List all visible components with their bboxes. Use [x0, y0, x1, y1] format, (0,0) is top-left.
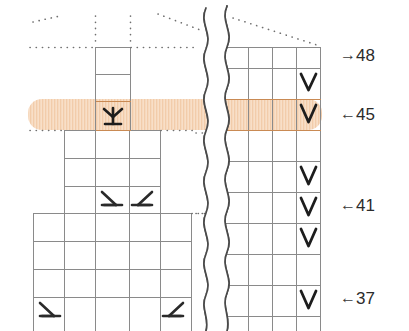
dotted-diagonal-topleft: [33, 16, 60, 22]
row-45-number: 45: [356, 105, 375, 124]
row-label-41: ←41: [340, 197, 375, 214]
v-stitch-row43: [301, 167, 316, 184]
row-label-37: ←37: [340, 290, 375, 307]
row-37-arrow-icon: ←: [340, 289, 356, 306]
row-41-arrow-icon: ←: [340, 196, 356, 213]
symbol-left-decrease-1: [132, 192, 152, 205]
row-41-number: 41: [356, 196, 375, 215]
dotted-diagonal-topmid: [158, 14, 203, 31]
symbol-right-decrease-2: [40, 303, 60, 316]
left-grid: [34, 48, 192, 331]
highlight-row-45: [28, 99, 322, 130]
symbol-left-decrease-2: [163, 303, 183, 316]
right-grid: [225, 48, 321, 331]
v-stitch-row39: [301, 229, 316, 246]
row-label-45: ←45: [340, 106, 375, 123]
v-stitch-row47: [301, 74, 316, 90]
row-label-48: →48: [340, 47, 375, 64]
row-37-number: 37: [356, 289, 375, 308]
dotted-diagonal-topright: [233, 18, 320, 46]
row-45-arrow-icon: ←: [340, 105, 356, 122]
row-48-number: 48: [356, 46, 375, 65]
row-48-arrow-icon: →: [340, 46, 356, 63]
symbol-right-decrease-1: [102, 192, 122, 205]
v-stitch-row37: [301, 291, 316, 308]
v-stitch-row41: [301, 198, 316, 215]
